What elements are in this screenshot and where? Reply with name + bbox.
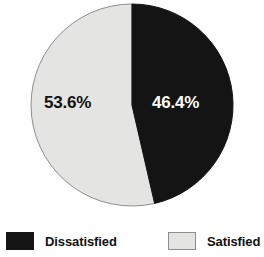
pie-chart-area: 53.6% 46.4% [0, 0, 264, 214]
pie-slice-label-satisfied: 53.6% [44, 93, 91, 113]
legend-item-satisfied[interactable]: Satisfied [168, 225, 260, 257]
legend-label-satisfied: Satisfied [207, 234, 260, 249]
pie-chart-figure: 53.6% 46.4% Dissatisfied Satisfied [0, 0, 264, 257]
legend-label-dissatisfied: Dissatisfied [45, 234, 117, 249]
pie-chart-svg [0, 0, 264, 214]
legend-swatch-dissatisfied-icon [6, 232, 34, 250]
legend-swatch-satisfied-icon [168, 232, 196, 250]
chart-legend: Dissatisfied Satisfied [0, 225, 264, 257]
pie-slice-label-dissatisfied: 46.4% [152, 93, 199, 113]
legend-item-dissatisfied[interactable]: Dissatisfied [6, 225, 117, 257]
